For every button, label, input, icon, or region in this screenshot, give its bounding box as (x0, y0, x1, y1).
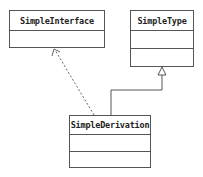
operations-compartment (131, 49, 193, 66)
attributes-compartment (131, 31, 193, 49)
class-simple-type[interactable]: SimpleType (130, 10, 194, 67)
attributes-compartment (10, 31, 104, 47)
class-name: SimpleInterface (10, 11, 104, 31)
class-name: SimpleDerivation (70, 116, 150, 135)
attributes-compartment (70, 135, 150, 152)
generalization-line (111, 75, 162, 115)
class-name: SimpleType (131, 11, 193, 31)
hollow-triangle-arrowhead-icon (158, 67, 166, 75)
class-simple-interface[interactable]: SimpleInterface (9, 10, 105, 48)
operations-compartment (70, 152, 150, 167)
class-simple-derivation[interactable]: SimpleDerivation (69, 115, 151, 168)
realization-line (55, 50, 94, 115)
